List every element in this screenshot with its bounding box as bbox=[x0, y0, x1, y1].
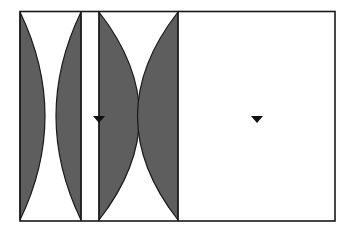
lens-diagram bbox=[0, 0, 350, 240]
